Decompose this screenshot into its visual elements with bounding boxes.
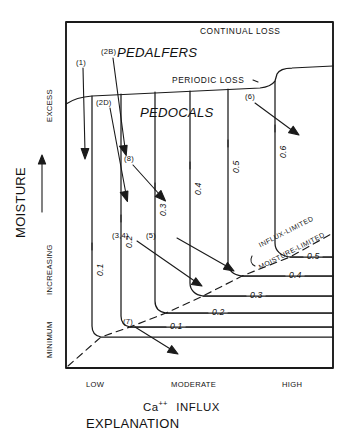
zone-label-pedalfers: PEDALFERS: [117, 46, 197, 59]
arrow-8-shaft: [133, 165, 160, 195]
callout-label-34: (3,4): [112, 232, 129, 240]
callout-label-2b: (2B): [101, 48, 116, 56]
callout-label-7: (7): [123, 318, 133, 326]
callout-label-1: (1): [76, 59, 86, 67]
contour-label-h-01: 0.1: [170, 322, 183, 331]
contour-label-v-03: 0.3: [159, 203, 168, 216]
zone-label-pedocals: PEDOCALS: [140, 106, 213, 119]
arrow-34-head: [192, 278, 203, 286]
x-axis-title-quantity: INFLUX: [176, 401, 220, 413]
y-axis-top-label: EXCESS: [46, 89, 54, 122]
arrow-5-head: [224, 263, 235, 272]
arrow-34-shaft: [137, 241, 196, 282]
contour-v-03: [155, 92, 333, 313]
limited-label-bracket: [251, 256, 255, 266]
plot-frame: [66, 22, 333, 368]
contour-label-h-05: 0.5: [307, 252, 320, 261]
contour-label-h-02: 0.2: [212, 308, 225, 317]
figure-caption-explanation: EXPLANATION: [86, 417, 179, 430]
x-axis-tick-high: HIGH: [282, 381, 302, 389]
y-axis-bottom-label: MINIMUM: [46, 321, 54, 358]
contour-label-v-04: 0.4: [194, 182, 203, 195]
zone-label-continual-loss: CONTINUAL LOSS: [200, 27, 280, 35]
moisture-increasing-arrow-head: [38, 155, 45, 164]
arrow-6-head: [289, 126, 299, 135]
x-axis-tick-moderate: MODERATE: [171, 381, 216, 389]
contour-label-h-03: 0.3: [250, 291, 263, 300]
contour-label-v-01: 0.1: [96, 263, 105, 276]
soil-classification-figure: CONTINUAL LOSS PEDALFERS PERIODIC LOSS P…: [0, 0, 350, 434]
y-axis-direction-label: INCREASING: [46, 244, 54, 295]
arrow-1-shaft: [83, 68, 85, 152]
contour-label-h-04: 0.4: [289, 271, 302, 280]
arrow-5-shaft: [177, 238, 228, 267]
x-axis-title: Ca++INFLUX: [143, 400, 220, 413]
contour-label-v-06: 0.6: [279, 145, 288, 158]
x-axis-tick-low: LOW: [86, 381, 104, 389]
arrow-7-head: [167, 346, 178, 354]
contour-v-02: [121, 94, 333, 327]
periodic-loss-leader: [253, 80, 258, 82]
x-axis-title-element: Ca: [143, 401, 159, 413]
arrow-1-head: [81, 149, 89, 160]
y-axis-title: MOISTURE: [14, 167, 27, 238]
contour-v-05: [228, 89, 333, 276]
arrow-7-shaft: [135, 327, 172, 350]
callout-label-5: (5): [146, 232, 156, 240]
callout-label-6: (6): [245, 93, 255, 101]
callout-label-8: (8): [124, 155, 134, 163]
zone-label-periodic-loss: PERIODIC LOSS: [172, 76, 244, 84]
callout-label-2d: (2D): [96, 99, 112, 107]
diagram-canvas: [0, 0, 350, 434]
arrow-6-shaft: [255, 103, 293, 131]
contour-label-v-05: 0.5: [232, 160, 241, 173]
x-axis-title-charge: ++: [159, 399, 168, 408]
